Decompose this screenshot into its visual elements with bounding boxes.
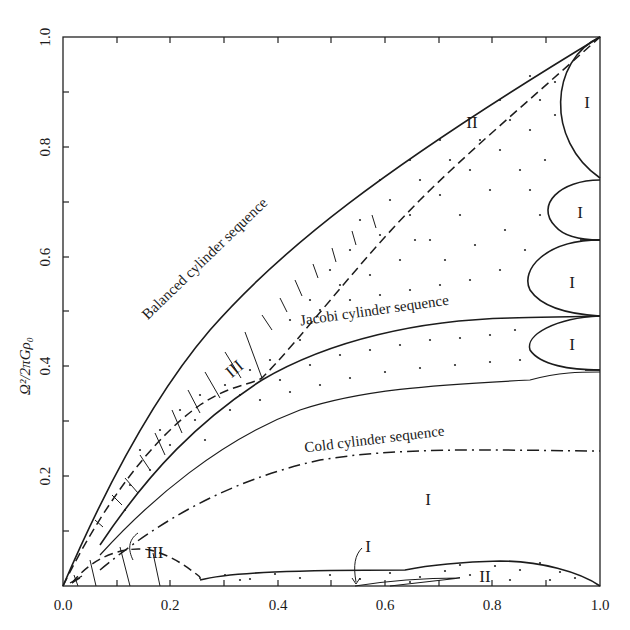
leader-lower-i: [355, 548, 362, 582]
jacobi-cylinder-curve: [100, 316, 600, 545]
x-tick-label: 0.2: [161, 597, 180, 613]
region-label-i-right-2: I: [577, 203, 583, 222]
stability-diagram: 0.0 0.2 0.4 0.6 0.8 1.0 0.2 0.4 0.6 0.8 …: [0, 0, 630, 630]
x-tick-label: 0.8: [483, 597, 502, 613]
region-label-i-mid: I: [425, 490, 431, 509]
region-label-i-right-1: I: [584, 93, 590, 112]
cold-cylinder-curve: [100, 450, 600, 570]
lower-i-sliver: [355, 578, 460, 586]
lower-solid-boundary: [100, 372, 600, 555]
x-tick-label: 0.4: [269, 597, 288, 613]
y-tick-label: 0.6: [37, 247, 53, 266]
x-tick-labels: 0.0 0.2 0.4 0.6 0.8 1.0: [54, 597, 610, 613]
lobe-i-3: [528, 240, 600, 316]
region-label-i-right-4: I: [569, 335, 575, 354]
jacobi-sequence-label: Jacobi cylinder sequence: [299, 292, 450, 329]
balanced-sequence-label: Balanced cylinder sequence: [139, 194, 271, 322]
y-tick-label: 0.2: [37, 467, 53, 486]
stipple-region-between-jacobi: [124, 329, 521, 511]
region-label-iii-upper: III: [222, 356, 247, 382]
lower-ii-boundary: [200, 561, 600, 586]
region-label-ii-upper: II: [466, 113, 478, 132]
y-axis-title: Ω²/2πGρ₀: [17, 337, 33, 395]
y-tick-label: 0.8: [37, 138, 53, 157]
leader-iii-lower: [130, 533, 138, 560]
region-label-iii-lower: III: [147, 543, 164, 562]
x-tick-label: 0.0: [54, 597, 73, 613]
region-label-i-lower: I: [365, 537, 371, 556]
x-tick-label: 0.6: [376, 597, 395, 613]
region-label-ii-lower: II: [479, 567, 491, 586]
y-tick-labels: 0.2 0.4 0.6 0.8 1.0: [37, 28, 53, 486]
region-label-i-right-3: I: [569, 273, 575, 292]
x-tick-label: 1.0: [591, 597, 610, 613]
lobe-i-2: [548, 180, 600, 240]
y-tick-label: 1.0: [37, 28, 53, 47]
y-tick-label: 0.4: [37, 356, 53, 375]
lobe-i-4: [529, 316, 600, 370]
